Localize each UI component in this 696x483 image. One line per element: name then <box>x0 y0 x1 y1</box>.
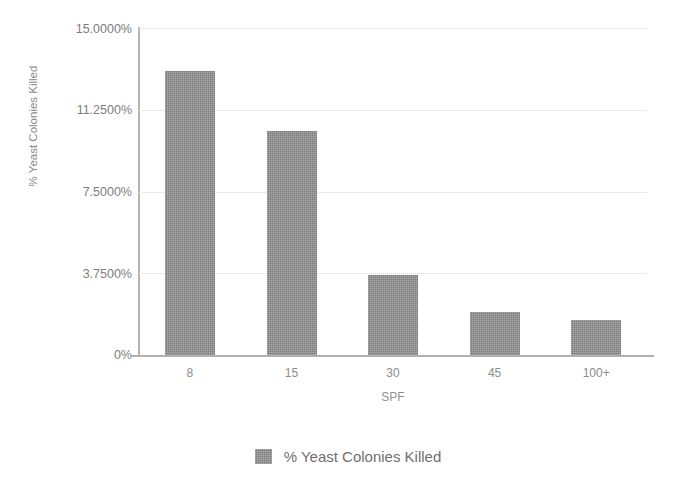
x-tick-label: 15 <box>241 366 343 380</box>
chart-legend: % Yeast Colonies Killed <box>0 448 696 465</box>
y-tick-label: 7.5000% <box>14 185 132 199</box>
legend-swatch-icon <box>255 449 272 464</box>
y-tick-label: 15.0000% <box>14 22 132 36</box>
x-tick-label: 100+ <box>545 366 647 380</box>
x-tick-label: 45 <box>444 366 546 380</box>
bar-chart-figure: % Yeast Colonies Killed 15.0000% 11.2500… <box>0 0 696 483</box>
y-axis-tick-labels: 15.0000% 11.2500% 7.5000% 3.7500% 0% <box>0 0 132 483</box>
x-tick-label: 8 <box>139 366 241 380</box>
legend-label: % Yeast Colonies Killed <box>284 448 442 465</box>
y-tick-label: 11.2500% <box>14 103 132 117</box>
x-axis-title: SPF <box>139 390 647 404</box>
y-tick-label: 0% <box>14 348 132 362</box>
y-tick-label: 3.7500% <box>14 267 132 281</box>
x-tick-label: 30 <box>342 366 444 380</box>
x-axis-tick-labels: 8 15 30 45 100+ <box>139 0 647 483</box>
